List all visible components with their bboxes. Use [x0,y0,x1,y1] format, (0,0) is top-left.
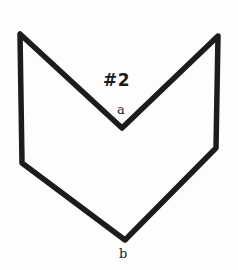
vertex-label-b: b [119,247,127,260]
figure-title: #2 [103,72,130,89]
chevron-polygon-outline [20,34,218,240]
figure-canvas: #2 a b [0,0,238,270]
vertex-label-a: a [117,103,125,116]
polygon-outline-group [20,34,218,240]
polygon-drawing [0,0,238,270]
